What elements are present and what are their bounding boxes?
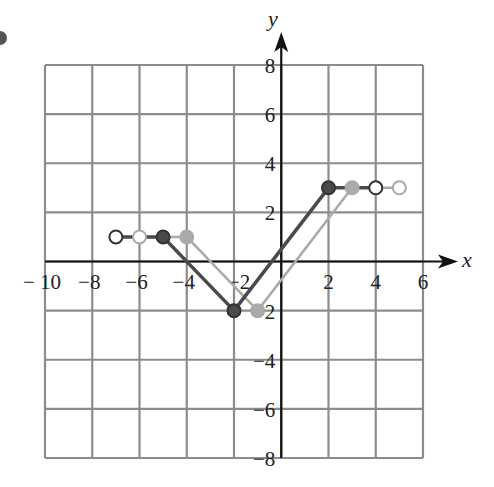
filled-point-marker [228,304,241,317]
filled-point-marker [322,181,335,194]
y-tick-label: 4 [265,152,276,176]
x-tick-label: 2 [323,270,334,294]
x-axis-label: x [461,247,472,272]
x-tick-label: −6 [125,270,147,294]
open-point-marker [133,230,146,243]
y-tick-label: 8 [265,54,276,78]
filled-point-marker [251,304,264,317]
x-tick-label: −8 [78,270,100,294]
series-layer [109,181,406,317]
x-tick-label: −4 [173,270,196,294]
y-axis-label: y [266,6,278,31]
x-tick-label: 4 [371,270,382,294]
x-tick-label: − 10 [23,270,61,294]
filled-point-marker [346,181,359,194]
y-tick-label: −4 [253,349,276,373]
y-tick-label: 2 [265,201,276,225]
x-tick-label: 6 [418,270,429,294]
graph-figure: − 10−8−6−42468642−2−4−6−8−2 x y [0,0,494,487]
open-point-marker [393,181,406,194]
open-point-marker [109,230,122,243]
filled-point-marker [157,230,170,243]
open-point-marker [369,181,382,194]
filled-point-marker [180,230,193,243]
y-tick-label: −8 [253,447,275,471]
y-tick-label: −6 [253,398,275,422]
y-tick-label: 6 [265,103,276,127]
axes [45,32,458,458]
cropped-marker [0,31,7,45]
